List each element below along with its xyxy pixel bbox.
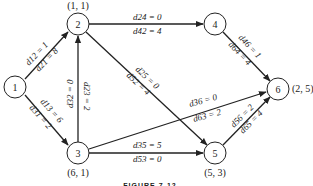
edge-label-d42: d42 = 4	[133, 26, 162, 36]
edge-label-d36: d36 = 0	[188, 92, 219, 109]
network-diagram: d12 = 1 d21 = 8 d13 = 6 d31 = 2 d32 = 0 …	[0, 0, 313, 186]
svg-text:6: 6	[276, 84, 281, 95]
edge-label-d35: d35 = 5	[133, 140, 162, 150]
svg-text:3: 3	[76, 148, 81, 159]
edge-label-d24: d24 = 0	[133, 12, 162, 22]
svg-text:4: 4	[213, 19, 218, 30]
node-6: 6	[267, 78, 289, 100]
node-5: 5	[204, 142, 226, 164]
node-2: 2	[67, 13, 89, 35]
edge-label-d32: d32 = 0	[65, 79, 75, 108]
figure-caption: FIGURE 7-12	[123, 182, 176, 186]
edge-label-d63: d63 = 2	[192, 107, 223, 124]
node-1: 1	[4, 76, 26, 98]
edge-label-d23: d23 = 2	[82, 82, 92, 111]
node-3-coord: (6, 1)	[67, 167, 89, 179]
svg-text:5: 5	[213, 148, 218, 159]
svg-text:1: 1	[13, 82, 18, 93]
edge-label-d53: d53 = 0	[133, 154, 162, 164]
node-5-coord: (5, 3)	[204, 167, 226, 179]
node-2-coord: (1, 1)	[67, 0, 89, 12]
node-6-coord: (2, 5)	[292, 83, 313, 95]
node-4: 4	[204, 13, 226, 35]
node-3: 3	[67, 142, 89, 164]
svg-text:2: 2	[76, 19, 81, 30]
